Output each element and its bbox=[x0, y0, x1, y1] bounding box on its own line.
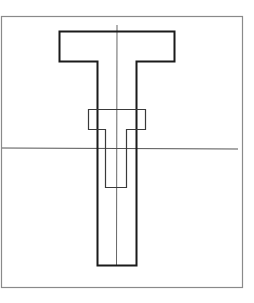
t-section-diagram bbox=[0, 0, 254, 303]
horizontal-reference-line bbox=[2, 148, 238, 149]
vertical-centerline bbox=[117, 25, 118, 265]
frame bbox=[2, 17, 243, 288]
